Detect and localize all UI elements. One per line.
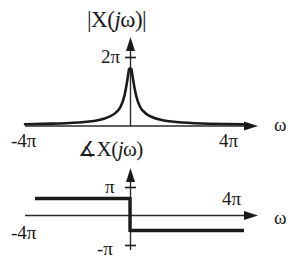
magnitude-x-axis-arrowhead [244,122,258,131]
magnitude-x-left-label: -4π [11,131,36,150]
figure-svg [0,0,308,267]
phase-plot-group [25,168,258,250]
phase-x-axis-arrowhead [244,211,258,220]
magnitude-y-tick-label-2pi: 2π [101,47,120,66]
magnitude-y-axis-arrowhead [126,37,135,51]
fourier-transform-figure: |X(jω)| 2π -4π 4π ω ∡X(jω) π -π -4π 4π ω [0,0,308,267]
phase-x-right-label: 4π [222,189,241,208]
phase-x-axis-label: ω [274,208,287,227]
magnitude-x-right-label: 4π [219,131,238,150]
phase-y-axis-arrowhead [126,168,135,182]
phase-y-tick-label-pi: π [105,177,115,196]
phase-plot-title: ∡X(jω) [78,139,143,160]
phase-x-left-label: -4π [11,223,36,242]
phase-y-tick-label-neg-pi: -π [97,239,113,258]
magnitude-x-axis-label: ω [274,115,287,134]
magnitude-plot-group [25,37,258,131]
magnitude-plot-title: |X(jω)| [87,8,146,31]
magnitude-curve [25,68,243,124]
